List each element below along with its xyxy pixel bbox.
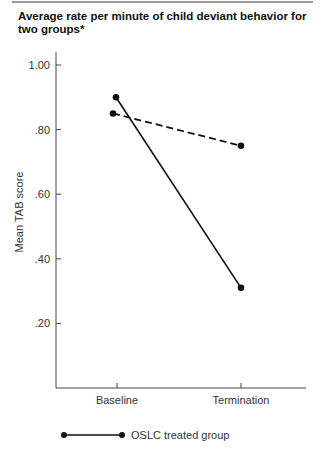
dashed-series-line <box>113 113 241 145</box>
y-tick-label: .60 <box>35 188 50 200</box>
line-chart: 1.00.80.60.40.20 BaselineTermination Mea… <box>0 0 323 450</box>
legend: OSLC treated group <box>61 429 229 441</box>
data-point-marker <box>110 110 117 117</box>
y-tick-label: .20 <box>35 317 50 329</box>
data-point-marker <box>238 142 245 149</box>
data-series <box>110 94 245 291</box>
solid-series-line <box>116 97 241 288</box>
data-point-marker <box>238 285 245 292</box>
y-tick-label: 1.00 <box>29 59 50 71</box>
axes <box>56 52 306 388</box>
x-axis-ticks: BaselineTermination <box>96 383 270 406</box>
y-tick-label: .40 <box>35 253 50 265</box>
data-point-marker <box>113 94 120 101</box>
legend-marker <box>119 432 125 438</box>
y-axis-label: Mean TAB score <box>13 172 25 253</box>
x-tick-label: Baseline <box>96 394 138 406</box>
x-tick-label: Termination <box>213 394 270 406</box>
legend-marker <box>61 432 67 438</box>
legend-label: OSLC treated group <box>131 429 229 441</box>
y-tick-label: .80 <box>35 124 50 136</box>
